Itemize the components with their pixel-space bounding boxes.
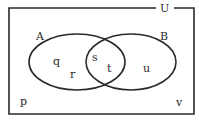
element-q: q: [53, 55, 60, 68]
element-v: v: [175, 96, 183, 109]
set-b-label: B: [160, 30, 168, 43]
set-a-label: A: [35, 30, 45, 43]
element-r: r: [70, 68, 76, 81]
element-s: s: [92, 51, 98, 64]
element-p: p: [20, 95, 27, 108]
element-u: u: [143, 62, 150, 75]
venn-diagram: U A B q r s t u p v: [0, 0, 199, 122]
background: [0, 0, 199, 122]
element-t: t: [107, 62, 112, 75]
universal-set-label: U: [160, 2, 169, 15]
